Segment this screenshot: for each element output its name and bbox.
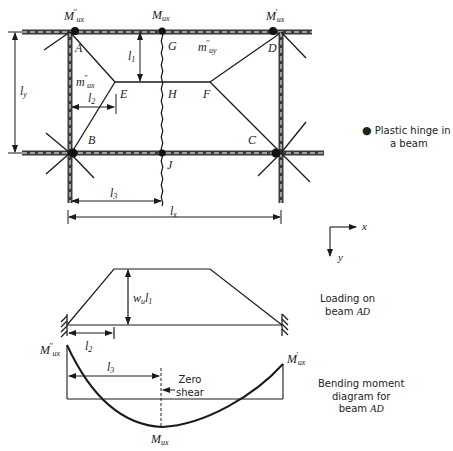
yield-lines: [70, 32, 279, 206]
moment-caption: Bending moment diagram for beam AD: [318, 378, 404, 416]
hinge-bottom-mid: [159, 150, 166, 157]
axis-x-label: x: [362, 221, 367, 232]
axis-y-label: y: [338, 252, 343, 263]
dim-lx: lx: [170, 205, 177, 219]
label-moment-left-top: M''ux: [64, 9, 84, 24]
label-moment-mid-top: Mux: [152, 9, 170, 23]
hinge-top-right: [269, 27, 277, 35]
moment-right-label: M'ux: [287, 352, 305, 367]
legend-line1: Plastic hinge in: [375, 125, 451, 136]
point-A: A: [75, 42, 82, 54]
hinge-top-mid: [159, 28, 166, 35]
point-H: H: [168, 88, 177, 100]
label-slab-moment-y: m''uy: [198, 40, 217, 55]
moment-bottom-label: Mux: [151, 433, 169, 447]
dim-l3: l3: [110, 187, 117, 201]
legend-line2: a beam: [362, 138, 428, 149]
loading-diagram: [61, 269, 288, 339]
loading-caption: Loading on beam AD: [320, 293, 375, 318]
moment-diagram: [67, 345, 283, 427]
point-E: E: [120, 88, 127, 100]
zero-shear-label: Zero shear: [176, 374, 204, 399]
dim-ly: ly: [20, 85, 27, 99]
loading-dim-l2: l2: [85, 340, 92, 354]
point-B: B: [88, 134, 95, 146]
moment-dim-l3: l3: [107, 361, 114, 375]
plastic-hinge-icon: ●: [362, 124, 372, 137]
legend: ● Plastic hinge in a beam: [362, 124, 451, 150]
dim-l2: l2: [88, 92, 95, 106]
label-moment-right-top: M'ux: [266, 9, 284, 24]
beams: [22, 32, 324, 203]
dim-l1: l1: [128, 50, 135, 64]
point-J: J: [167, 159, 172, 171]
label-slab-moment-x: m''ux: [76, 75, 95, 90]
hinge-bottom-left: [69, 149, 78, 158]
moment-left-label: M''ux: [40, 343, 60, 358]
point-D: D: [268, 42, 277, 54]
point-C: C: [248, 134, 256, 146]
hinge-bottom-right: [272, 149, 281, 158]
axes-indicator: [330, 227, 356, 256]
point-G: G: [168, 40, 177, 52]
load-label: wul1: [133, 292, 152, 306]
point-F: F: [203, 88, 210, 100]
hinge-top-left: [71, 27, 79, 35]
